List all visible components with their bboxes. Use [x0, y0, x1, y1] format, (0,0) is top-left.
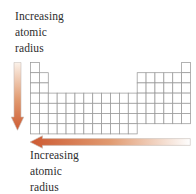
element-cell: [75, 103, 84, 113]
element-cell: [66, 103, 75, 113]
element-cell: [66, 114, 75, 124]
element-cell: [173, 83, 182, 93]
element-cell: [164, 73, 173, 83]
element-cell: [39, 114, 48, 124]
element-cell: [75, 114, 84, 124]
element-cell: [173, 93, 182, 103]
element-cell: [57, 114, 66, 124]
element-cell: [182, 73, 191, 83]
element-cell: [48, 114, 57, 124]
element-cell: [57, 103, 66, 113]
element-cell: [93, 124, 102, 134]
element-cell: [155, 83, 164, 93]
element-cell: [173, 103, 182, 113]
element-cell: [48, 124, 57, 134]
top-axis-label: Increasing atomic radius: [15, 8, 64, 57]
element-cell: [93, 114, 102, 124]
element-cell: [182, 103, 191, 113]
element-cell: [119, 93, 128, 103]
element-cell: [155, 103, 164, 113]
element-cell: [119, 124, 128, 134]
element-cell: [31, 93, 40, 103]
element-cell: [128, 103, 137, 113]
element-cell: [31, 103, 40, 113]
down-arrow-shape: [11, 62, 24, 130]
element-cell: [39, 124, 48, 134]
element-cell: [111, 93, 120, 103]
element-cell: [102, 124, 111, 134]
label-line: atomic: [30, 163, 79, 179]
element-cell: [119, 114, 128, 124]
element-cell: [84, 103, 93, 113]
down-arrow-icon: [10, 62, 25, 131]
element-cell: [31, 124, 40, 134]
element-cell: [31, 63, 40, 73]
element-cell: [39, 73, 48, 83]
periodic-table-outline: [30, 62, 192, 135]
element-cell: [39, 83, 48, 93]
element-cell: [119, 103, 128, 113]
element-cell: [164, 103, 173, 113]
element-cell: [66, 124, 75, 134]
atomic-radius-trend-figure: Increasing atomic radius Increasing atom…: [0, 0, 196, 194]
element-cell: [173, 73, 182, 83]
element-cell: [84, 114, 93, 124]
element-cell: [155, 93, 164, 103]
element-cell: [182, 114, 191, 124]
element-cell: [137, 83, 146, 93]
label-line: Increasing: [15, 8, 64, 24]
element-cell: [137, 103, 146, 113]
element-cell: [84, 124, 93, 134]
label-line: radius: [15, 40, 64, 56]
element-cell: [146, 103, 155, 113]
element-cell: [146, 114, 155, 124]
element-cell: [146, 83, 155, 93]
element-cell: [66, 93, 75, 103]
element-cell: [102, 103, 111, 113]
element-cell: [182, 93, 191, 103]
element-cell: [164, 93, 173, 103]
element-cell: [164, 114, 173, 124]
element-cell: [75, 124, 84, 134]
element-cell: [111, 114, 120, 124]
element-cell: [182, 63, 191, 73]
element-cell: [137, 93, 146, 103]
label-line: atomic: [15, 24, 64, 40]
element-cell: [39, 93, 48, 103]
label-line: Increasing: [30, 147, 79, 163]
label-line: radius: [30, 179, 79, 194]
element-cell: [48, 93, 57, 103]
element-cell: [128, 114, 137, 124]
element-cell: [93, 93, 102, 103]
element-cell: [57, 93, 66, 103]
element-cell: [31, 73, 40, 83]
element-cell: [155, 114, 164, 124]
element-cell: [93, 103, 102, 113]
element-cell: [173, 114, 182, 124]
element-cell: [102, 93, 111, 103]
element-cell: [57, 124, 66, 134]
element-cell: [31, 83, 40, 93]
element-cell: [111, 124, 120, 134]
element-cell: [146, 93, 155, 103]
element-cell: [128, 93, 137, 103]
element-cell: [31, 114, 40, 124]
element-cell: [48, 103, 57, 113]
bottom-axis-label: Increasing atomic radius: [30, 147, 79, 194]
element-cell: [128, 124, 137, 134]
element-cell: [39, 103, 48, 113]
element-cell: [155, 73, 164, 83]
element-cell: [137, 73, 146, 83]
element-cell: [111, 103, 120, 113]
element-cell: [84, 93, 93, 103]
element-cell: [164, 83, 173, 93]
element-cell: [182, 83, 191, 93]
element-cell: [102, 114, 111, 124]
element-cell: [75, 93, 84, 103]
element-cell: [146, 73, 155, 83]
element-cell: [137, 114, 146, 124]
